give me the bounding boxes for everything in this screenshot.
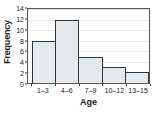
y-tick-label: 10 xyxy=(16,26,24,33)
x-tick-label: 13–15 xyxy=(128,87,147,94)
plot-area xyxy=(27,8,150,84)
bar xyxy=(125,72,149,83)
y-tick-label: 14 xyxy=(16,5,24,12)
bar-series xyxy=(28,9,149,83)
x-tick-label: 10–12 xyxy=(105,87,124,94)
y-tick-label: 2 xyxy=(20,70,24,77)
y-tick-label: 12 xyxy=(16,15,24,22)
x-tick-mark xyxy=(79,84,80,86)
x-tick-mark xyxy=(150,84,151,86)
y-axis-title: Frequency xyxy=(0,0,14,84)
y-axis-title-text: Frequency xyxy=(2,20,12,64)
x-tick-mark xyxy=(31,84,32,86)
bar xyxy=(78,57,102,83)
y-axis-ticks: 02468101214 xyxy=(13,8,25,84)
x-axis-title: Age xyxy=(27,97,150,107)
bar xyxy=(32,41,56,83)
x-tick-mark xyxy=(126,84,127,86)
y-tick-label: 0 xyxy=(20,81,24,88)
y-tick-label: 6 xyxy=(20,48,24,55)
x-tick-mark xyxy=(55,84,56,86)
bar xyxy=(102,67,126,83)
x-axis-ticks: 1–34–67–910–1213–15 xyxy=(27,84,150,98)
histogram-chart: Frequency 02468101214 1–34–67–910–1213–1… xyxy=(0,0,152,113)
x-tick-label: 1–3 xyxy=(37,87,49,94)
y-tick-label: 4 xyxy=(20,59,24,66)
x-tick-mark xyxy=(102,84,103,86)
y-tick-label: 8 xyxy=(20,37,24,44)
x-tick-label: 4–6 xyxy=(61,87,73,94)
bar xyxy=(55,20,79,83)
x-tick-label: 7–9 xyxy=(85,87,97,94)
